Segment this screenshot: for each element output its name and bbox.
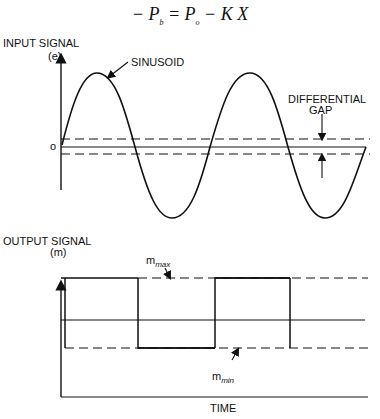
mmax-pointer-icon (165, 268, 169, 276)
time-label: TIME (210, 402, 236, 414)
mmin-label: mmin (212, 370, 234, 385)
output-unit: (m) (50, 246, 67, 258)
output-title: OUTPUT SIGNAL (3, 235, 91, 247)
mmin-pointer-icon (232, 351, 237, 360)
mmax-label: mmax (146, 254, 170, 269)
input-unit: (e) (48, 50, 61, 62)
zero-label: o (50, 140, 56, 152)
sinusoid-label: SINUSOID (131, 56, 184, 68)
input-title: INPUT SIGNAL (3, 37, 79, 49)
sinusoid-pointer-icon (110, 62, 128, 76)
gap-label-line2: GAP (309, 104, 332, 116)
diagram-graphics (0, 0, 380, 419)
square-wave (61, 278, 290, 348)
